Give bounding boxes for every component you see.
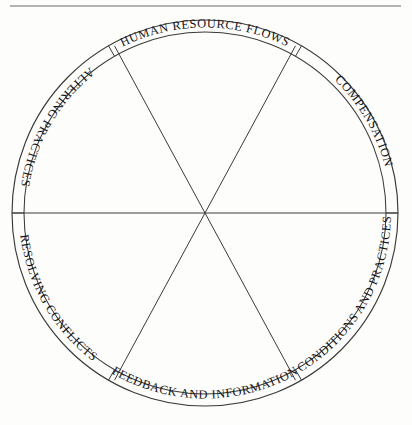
sector-label-resolving-conflicts: RESOLVING CONFLICTS <box>17 233 100 364</box>
wheel-diagram-figure: HUMAN RESOURCE FLOWS COMPENSATION CONDIT… <box>0 0 412 425</box>
sector-label-feedback-and-information-text: FEEDBACK AND INFORMATION <box>110 364 301 402</box>
ring-divider-300deg <box>296 46 302 56</box>
ring-divider-240deg <box>109 46 115 56</box>
sector-label-human-resource-flows-text: HUMAN RESOURCE FLOWS <box>118 16 293 49</box>
sector-label-altering-practices: ALTERING PRACTICES <box>18 65 97 188</box>
wheel-diagram-svg: HUMAN RESOURCE FLOWS COMPENSATION CONDIT… <box>0 0 412 425</box>
sector-label-altering-practices-text: ALTERING PRACTICES <box>18 65 97 188</box>
sector-label-feedback-and-information: FEEDBACK AND INFORMATION <box>110 364 301 402</box>
sector-label-resolving-conflicts-text: RESOLVING CONFLICTS <box>17 233 100 364</box>
sector-label-human-resource-flows: HUMAN RESOURCE FLOWS <box>118 16 293 49</box>
sector-label-compensation: COMPENSATION <box>332 72 395 168</box>
sector-label-compensation-text: COMPENSATION <box>332 72 395 168</box>
